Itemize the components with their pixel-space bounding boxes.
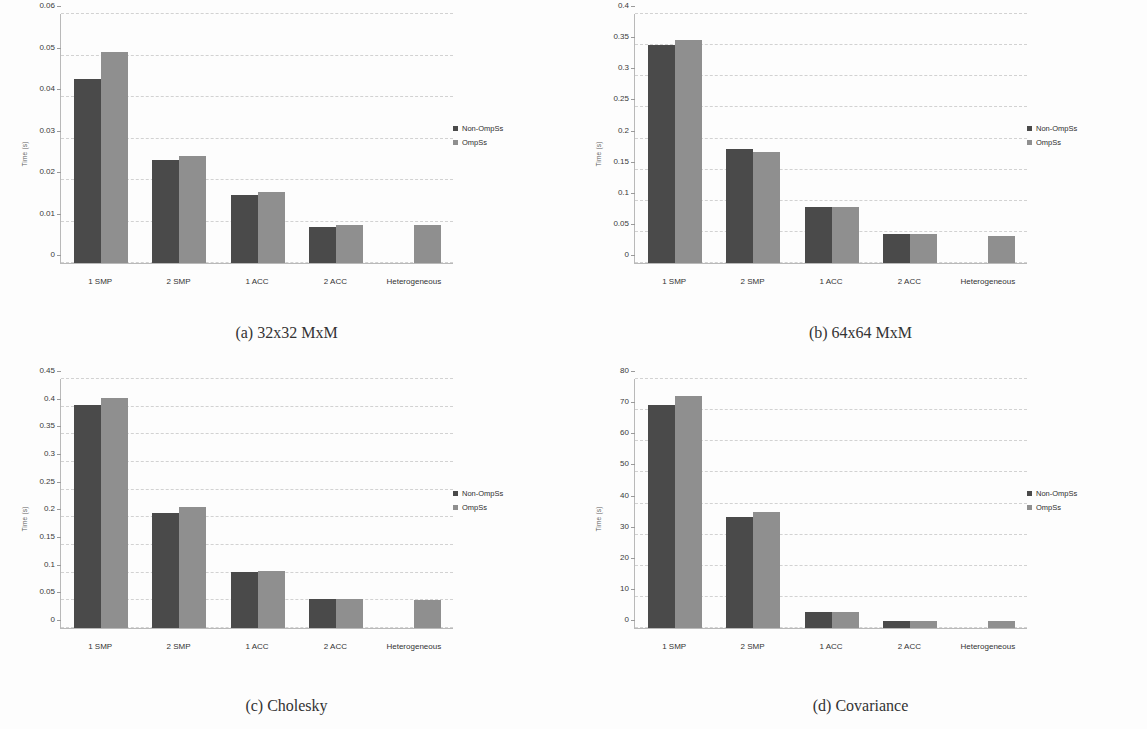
bar-group (62, 379, 140, 628)
bar-groups (62, 14, 453, 263)
bar-non-ompss (74, 405, 101, 628)
bar-group (218, 14, 296, 263)
x-axis-ticks: 1 SMP2 SMP1 ACC2 ACCHeterogeneous (635, 642, 1027, 651)
chart-a: Time (s) 00.010.020.030.040.050.06 1 SMP… (0, 4, 573, 304)
bar-non-ompss (883, 234, 910, 263)
chart-c: Time (s) 00.050.10.150.20.250.30.350.40.… (0, 369, 573, 669)
bar-group (297, 14, 375, 263)
bar-ompss (258, 192, 285, 263)
y-axis-tick-label: 0.05 (613, 220, 635, 228)
subcaption-b: (b) 64x64 MxM (574, 324, 1147, 342)
bar-groups (636, 379, 1027, 628)
legend-swatch-ompss-icon (1027, 140, 1032, 145)
chart-panel-b: Time (s) 00.050.10.150.20.250.30.350.4 1… (574, 0, 1147, 364)
legend-label-non-ompss: Non-OmpSs (1036, 124, 1077, 133)
y-axis-tick-label: 0.2 (618, 127, 635, 135)
y-axis-tick-label: 60 (620, 429, 635, 437)
bar-ompss (101, 52, 128, 263)
plot-area-a: 00.010.020.030.040.050.06 (60, 14, 453, 264)
bar-non-ompss (726, 149, 753, 263)
bar-group (871, 379, 949, 628)
bar-group (140, 14, 218, 263)
y-axis-tick-label: 0.35 (39, 422, 61, 430)
legend-item-non-ompss: Non-OmpSs (453, 489, 563, 498)
y-axis-tick-label: 0 (51, 251, 61, 259)
chart-d: Time (s) 01020304050607080 1 SMP2 SMP1 A… (574, 369, 1147, 669)
y-axis-tick-label: 0.01 (39, 210, 61, 218)
bar-ompss (910, 234, 937, 263)
bar-ompss (414, 225, 441, 263)
bar-ompss (101, 398, 128, 628)
legend-item-ompss: OmpSs (1027, 503, 1137, 512)
y-axis-tick-label: 0.15 (39, 533, 61, 541)
bar-non-ompss (883, 621, 910, 628)
bar-groups (636, 14, 1027, 263)
y-axis-tick-label: 0 (625, 251, 635, 259)
bar-non-ompss (309, 599, 336, 628)
y-axis-label: Time (s) (595, 141, 602, 166)
bar-ompss (753, 512, 780, 628)
bar-group (949, 14, 1027, 263)
bar-group (636, 379, 714, 628)
x-axis-tick-label: 1 SMP (635, 277, 713, 286)
legend-item-non-ompss: Non-OmpSs (453, 124, 563, 133)
x-axis-tick-label: 1 SMP (61, 642, 139, 651)
x-axis-tick-label: 2 SMP (139, 277, 217, 286)
y-axis-tick-label: 0.02 (39, 168, 61, 176)
y-axis-tick-label: 0.25 (613, 95, 635, 103)
y-axis-tick-label: 10 (620, 585, 635, 593)
bar-group (636, 14, 714, 263)
bar-ompss (832, 207, 859, 263)
bar-non-ompss (74, 79, 101, 263)
bar-group (714, 379, 792, 628)
legend-swatch-non-ompss-icon (453, 126, 458, 131)
legend-item-ompss: OmpSs (453, 138, 563, 147)
y-axis-tick-label: 20 (620, 554, 635, 562)
y-axis-tick-label: 40 (620, 492, 635, 500)
y-axis-tick-label: 0.35 (613, 33, 635, 41)
plot-frame: 00.050.10.150.20.250.30.350.4 (634, 14, 1027, 264)
bar-non-ompss (309, 227, 336, 263)
bar-ompss (832, 612, 859, 628)
bar-ompss (258, 571, 285, 628)
x-axis-tick-label: 2 ACC (870, 277, 948, 286)
bar-group (140, 379, 218, 628)
y-axis-tick-label: 0.1 (44, 561, 61, 569)
x-axis-ticks: 1 SMP2 SMP1 ACC2 ACCHeterogeneous (61, 277, 453, 286)
y-axis-tick-label: 50 (620, 460, 635, 468)
x-axis-tick-label: 2 ACC (870, 642, 948, 651)
legend-a: Non-OmpSs OmpSs (453, 124, 563, 152)
y-axis-tick-label: 0.3 (44, 450, 61, 458)
legend-item-non-ompss: Non-OmpSs (1027, 124, 1137, 133)
y-axis-tick-label: 0.06 (39, 2, 61, 10)
chart-panel-a: Time (s) 00.010.020.030.040.050.06 1 SMP… (0, 0, 573, 364)
legend-item-ompss: OmpSs (1027, 138, 1137, 147)
y-axis-label: Time (s) (21, 141, 28, 166)
bar-non-ompss (648, 405, 675, 628)
y-axis-tick-label: 0.1 (618, 189, 635, 197)
bar-non-ompss (805, 612, 832, 628)
legend-swatch-non-ompss-icon (453, 491, 458, 496)
y-axis-label: Time (s) (21, 506, 28, 531)
x-axis-tick-label: 1 SMP (635, 642, 713, 651)
x-axis-tick-label: 2 ACC (296, 277, 374, 286)
y-axis-tick-label: 70 (620, 398, 635, 406)
x-axis-ticks: 1 SMP2 SMP1 ACC2 ACCHeterogeneous (61, 642, 453, 651)
x-axis-tick-label: 1 ACC (792, 642, 870, 651)
bar-ompss (336, 225, 363, 263)
bar-group (949, 379, 1027, 628)
plot-area-d: 01020304050607080 (634, 379, 1027, 629)
legend-label-ompss: OmpSs (462, 503, 487, 512)
y-axis-tick-label: 30 (620, 523, 635, 531)
bar-ompss (414, 600, 441, 628)
bar-group (62, 14, 140, 263)
legend-label-ompss: OmpSs (1036, 503, 1061, 512)
y-axis-tick-label: 0.25 (39, 478, 61, 486)
y-axis-tick-label: 0.4 (44, 395, 61, 403)
plot-frame: 00.050.10.150.20.250.30.350.40.45 (60, 379, 453, 629)
chart-panel-d: Time (s) 01020304050607080 1 SMP2 SMP1 A… (574, 365, 1147, 729)
y-axis-tick-label: 0.04 (39, 85, 61, 93)
legend-b: Non-OmpSs OmpSs (1027, 124, 1137, 152)
bar-non-ompss (648, 45, 675, 263)
legend-label-non-ompss: Non-OmpSs (1036, 489, 1077, 498)
